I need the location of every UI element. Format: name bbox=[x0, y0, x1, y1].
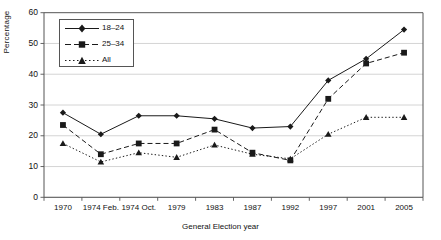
data-point-marker bbox=[401, 50, 407, 56]
x-axis-tick: 1987 bbox=[244, 203, 262, 212]
data-point-marker bbox=[136, 113, 142, 119]
y-axis-tick: 30 bbox=[10, 100, 38, 110]
data-point-marker bbox=[363, 61, 369, 67]
x-axis-tick: 1992 bbox=[281, 203, 299, 212]
data-point-marker bbox=[249, 125, 255, 131]
legend-swatch-square-icon bbox=[64, 38, 100, 51]
data-point-marker bbox=[173, 154, 180, 160]
x-axis-tick: 1974 Oct. bbox=[121, 203, 156, 212]
data-point-marker bbox=[98, 151, 104, 157]
data-point-marker bbox=[98, 131, 104, 137]
legend-label-2: All bbox=[102, 55, 111, 64]
data-point-marker bbox=[325, 131, 332, 137]
legend-swatch-diamond-icon bbox=[64, 22, 100, 35]
data-point-marker bbox=[211, 142, 218, 148]
y-axis-tick: 10 bbox=[10, 161, 38, 171]
legend: 18–24 25–34 All bbox=[59, 19, 134, 67]
data-point-marker bbox=[212, 127, 218, 133]
series-line-2 bbox=[63, 117, 404, 162]
y-axis-tick: 20 bbox=[10, 130, 38, 140]
legend-item-1: 25–34 bbox=[60, 38, 133, 52]
data-point-marker bbox=[60, 122, 66, 128]
y-axis-tick: 60 bbox=[10, 7, 38, 17]
data-point-marker bbox=[325, 96, 331, 102]
x-axis-tick: 2005 bbox=[395, 203, 413, 212]
y-axis-tick: 0 bbox=[10, 192, 38, 202]
data-point-marker bbox=[174, 113, 180, 119]
x-axis-tick: 1979 bbox=[168, 203, 186, 212]
x-axis-tick: 1974 Feb. bbox=[83, 203, 119, 212]
data-point-marker bbox=[401, 114, 408, 120]
legend-label-0: 18–24 bbox=[102, 23, 124, 32]
data-point-marker bbox=[60, 140, 67, 146]
data-point-marker bbox=[136, 141, 142, 147]
x-axis-tick: 2001 bbox=[357, 203, 375, 212]
series-line-1 bbox=[63, 53, 404, 161]
y-axis-tick: 50 bbox=[10, 38, 38, 48]
line-chart: Percentage General Election year 18–24 2… bbox=[0, 0, 441, 240]
x-axis-tick: 1970 bbox=[54, 203, 72, 212]
data-point-marker bbox=[60, 110, 66, 116]
y-axis-tick: 40 bbox=[10, 69, 38, 79]
legend-item-0: 18–24 bbox=[60, 22, 133, 36]
data-point-marker bbox=[211, 116, 217, 122]
legend-label-1: 25–34 bbox=[102, 39, 124, 48]
legend-item-2: All bbox=[60, 54, 133, 68]
data-point-marker bbox=[135, 149, 142, 155]
data-point-marker bbox=[174, 141, 180, 147]
legend-swatch-triangle-icon bbox=[64, 54, 100, 67]
x-axis-tick: 1983 bbox=[206, 203, 224, 212]
x-axis-tick: 1997 bbox=[319, 203, 337, 212]
